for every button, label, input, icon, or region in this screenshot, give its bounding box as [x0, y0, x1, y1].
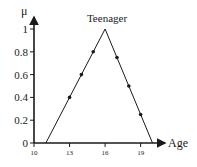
data-point — [139, 113, 143, 117]
data-point — [68, 96, 72, 100]
data-point — [127, 84, 131, 88]
y-tick-label: 0 — [23, 137, 29, 149]
x-tick-label: 19 — [137, 149, 145, 157]
chart-svg: μ Age Teenager 00.20.40.60.81 10131619 — [0, 0, 197, 167]
x-tick-label: 10 — [31, 149, 39, 157]
data-point — [80, 73, 84, 77]
x-tick-label: 16 — [102, 149, 110, 157]
sample-points — [68, 50, 143, 116]
x-tick-label: 13 — [66, 149, 74, 157]
data-point — [115, 56, 119, 60]
y-tick-label: 1 — [23, 23, 29, 35]
y-ticks: 00.20.40.60.81 — [14, 23, 34, 149]
x-axis-label: Age — [168, 136, 188, 150]
y-tick-label: 0.6 — [14, 69, 28, 81]
x-ticks: 10131619 — [31, 143, 145, 157]
membership-line — [46, 29, 153, 143]
membership-function-chart: μ Age Teenager 00.20.40.60.81 10131619 — [0, 0, 197, 167]
y-tick-label: 0.2 — [14, 114, 28, 126]
y-tick-label: 0.4 — [14, 91, 28, 103]
data-point — [91, 50, 95, 54]
y-axis-label: μ — [21, 4, 27, 18]
y-tick-label: 0.8 — [14, 46, 28, 58]
chart-title: Teenager — [87, 12, 127, 24]
